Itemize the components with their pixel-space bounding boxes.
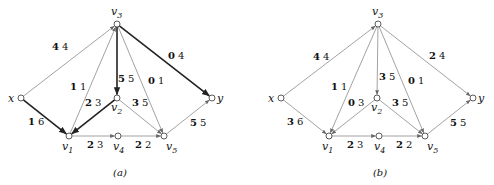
flow-value: 1 bbox=[28, 116, 35, 127]
capacity-value: 5 bbox=[460, 117, 466, 128]
capacity-value: 1 bbox=[341, 81, 347, 92]
flow-value: 1 bbox=[331, 81, 338, 92]
flow-value: 3 bbox=[392, 97, 399, 108]
node-label-v3: v3 bbox=[372, 5, 383, 20]
edge-label-v2-v5: 35 bbox=[392, 97, 408, 108]
node-v1 bbox=[326, 133, 332, 139]
capacity-value: 2 bbox=[406, 139, 412, 150]
node-v4 bbox=[376, 133, 382, 139]
edge-v2-v5 bbox=[379, 100, 422, 134]
edge-label-v4-v5: 22 bbox=[135, 139, 151, 150]
flow-value: 0 bbox=[168, 50, 175, 61]
edge-label-v3-y: 24 bbox=[429, 50, 445, 61]
edge-label-x-v1: 36 bbox=[287, 116, 303, 127]
edge-v3-v2 bbox=[377, 27, 378, 95]
capacity-value: 5 bbox=[142, 97, 148, 108]
node-label-v4: v4 bbox=[374, 140, 385, 155]
capacity-value: 6 bbox=[38, 116, 44, 127]
node-v3 bbox=[375, 21, 381, 27]
flow-value: 0 bbox=[148, 75, 155, 86]
flow-value: 0 bbox=[408, 75, 415, 86]
edge-v2-v1 bbox=[72, 100, 115, 134]
flow-value: 3 bbox=[287, 116, 294, 127]
node-label-v4: v4 bbox=[113, 140, 124, 155]
caption-a: (a) bbox=[113, 167, 127, 178]
node-label-v2: v2 bbox=[371, 101, 382, 116]
flow-network-figure: 4416112355010435232255xv1v2v3v4v5y(a)443… bbox=[0, 0, 494, 185]
edge-label-x-v3: 44 bbox=[52, 41, 68, 52]
edge-label-v2-v1: 03 bbox=[348, 97, 364, 108]
edge-label-v4-v5: 22 bbox=[396, 139, 412, 150]
flow-value: 2 bbox=[85, 97, 92, 108]
flow-value: 2 bbox=[429, 50, 436, 61]
flow-value: 2 bbox=[347, 139, 354, 150]
capacity-value: 1 bbox=[418, 75, 424, 86]
node-v5 bbox=[161, 133, 167, 139]
capacity-value: 1 bbox=[80, 81, 86, 92]
capacity-value: 1 bbox=[158, 75, 164, 86]
edge-label-x-v3: 44 bbox=[313, 51, 329, 62]
edge-label-v5-y: 55 bbox=[450, 117, 466, 128]
edge-x-v3 bbox=[23, 26, 114, 96]
edge-label-v1-v3: 11 bbox=[70, 81, 86, 92]
flow-value: 5 bbox=[190, 117, 197, 128]
capacity-value: 3 bbox=[358, 97, 364, 108]
edge-label-v2-v1: 23 bbox=[85, 97, 101, 108]
node-v4 bbox=[115, 133, 121, 139]
node-v3 bbox=[114, 21, 120, 27]
node-label-v5: v5 bbox=[166, 140, 177, 155]
node-label-x: x bbox=[8, 92, 15, 105]
flow-value: 2 bbox=[135, 139, 142, 150]
edge-label-v3-v2: 55 bbox=[118, 73, 134, 84]
node-label-v5: v5 bbox=[427, 140, 438, 155]
capacity-value: 4 bbox=[323, 51, 329, 62]
edge-label-v3-y: 04 bbox=[168, 50, 184, 61]
flow-value: 5 bbox=[450, 117, 457, 128]
labels-layer: 4416112355010435232255xv1v2v3v4v5y(a)443… bbox=[8, 5, 485, 178]
flow-value: 4 bbox=[313, 51, 320, 62]
capacity-value: 4 bbox=[178, 50, 184, 61]
flow-value: 2 bbox=[396, 139, 403, 150]
capacity-value: 3 bbox=[357, 139, 363, 150]
node-label-v1: v1 bbox=[322, 140, 333, 155]
capacity-value: 3 bbox=[95, 97, 101, 108]
edge-v2-v5 bbox=[119, 100, 161, 134]
node-label-v3: v3 bbox=[111, 5, 122, 20]
capacity-value: 6 bbox=[297, 116, 303, 127]
capacity-value: 3 bbox=[97, 139, 103, 150]
diagram-b bbox=[283, 26, 470, 136]
edge-label-v3-v5: 01 bbox=[408, 75, 424, 86]
capacity-value: 4 bbox=[62, 41, 68, 52]
node-y bbox=[470, 95, 476, 101]
caption-b: (b) bbox=[373, 167, 387, 178]
flow-value: 2 bbox=[87, 139, 94, 150]
node-x bbox=[278, 95, 284, 101]
capacity-value: 5 bbox=[402, 97, 408, 108]
node-y bbox=[209, 95, 215, 101]
edge-label-v3-v5: 01 bbox=[148, 75, 164, 86]
edge-label-v3-v1: 11 bbox=[331, 81, 347, 92]
node-label-y: y bbox=[477, 92, 485, 105]
capacity-value: 5 bbox=[389, 71, 395, 82]
flow-value: 3 bbox=[379, 71, 386, 82]
node-label-v2: v2 bbox=[111, 101, 122, 116]
edge-label-v2-v5: 35 bbox=[132, 97, 148, 108]
edge-label-v5-y: 55 bbox=[190, 117, 206, 128]
flow-value: 1 bbox=[70, 81, 77, 92]
capacity-value: 5 bbox=[200, 117, 206, 128]
edge-label-x-v1: 16 bbox=[28, 116, 44, 127]
edge-label-v3-v2: 35 bbox=[379, 71, 395, 82]
capacity-value: 2 bbox=[145, 139, 151, 150]
flow-value: 3 bbox=[132, 97, 139, 108]
node-v5 bbox=[422, 133, 428, 139]
node-v1 bbox=[66, 133, 72, 139]
node-label-y: y bbox=[216, 92, 224, 105]
flow-value: 4 bbox=[52, 41, 59, 52]
node-label-x: x bbox=[268, 92, 275, 105]
edge-label-v1-v4: 23 bbox=[87, 139, 103, 150]
flow-value: 0 bbox=[348, 97, 355, 108]
node-label-v1: v1 bbox=[62, 140, 73, 155]
edge-label-v1-v4: 23 bbox=[347, 139, 363, 150]
capacity-value: 4 bbox=[439, 50, 445, 61]
flow-value: 5 bbox=[118, 73, 125, 84]
